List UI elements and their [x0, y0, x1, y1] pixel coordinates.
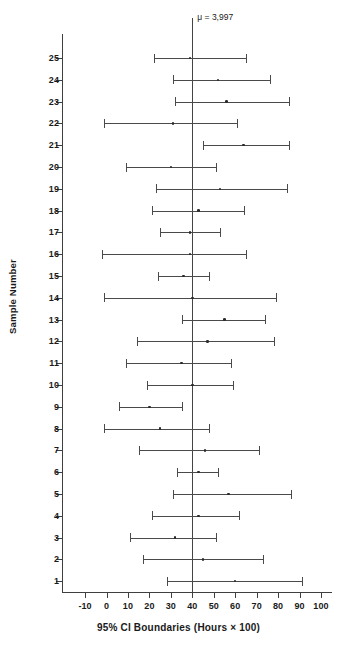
- ci-upper-cap: [237, 119, 238, 128]
- x-tick-90: [300, 592, 301, 598]
- ci-row-sample-13: [0, 314, 357, 326]
- ci-row-sample-18: [0, 205, 357, 217]
- ci-bar: [139, 450, 259, 451]
- x-tick-30: [171, 592, 172, 598]
- ci-lower-cap: [104, 119, 105, 128]
- ci-bar: [130, 538, 216, 539]
- ci-upper-cap: [289, 141, 290, 150]
- ci-upper-cap: [246, 250, 247, 259]
- x-tick--10: [85, 592, 86, 598]
- ci-upper-cap: [220, 228, 221, 237]
- ci-bar: [152, 516, 240, 517]
- x-tick-100: [321, 592, 322, 598]
- ci-lower-cap: [143, 555, 144, 564]
- ci-bar: [102, 254, 246, 255]
- ci-lower-cap: [119, 402, 120, 411]
- ci-row-sample-12: [0, 335, 357, 347]
- ci-upper-cap: [233, 381, 234, 390]
- ci-row-sample-16: [0, 248, 357, 260]
- ci-row-sample-25: [0, 52, 357, 64]
- ci-lower-cap: [130, 533, 131, 542]
- ci-row-sample-23: [0, 96, 357, 108]
- ci-center-point: [191, 297, 194, 300]
- confidence-interval-chart: Sample Number 12345678910111213141516171…: [0, 0, 357, 652]
- ci-lower-cap: [152, 511, 153, 520]
- ci-upper-cap: [216, 163, 217, 172]
- ci-lower-cap: [126, 163, 127, 172]
- ci-lower-cap: [137, 337, 138, 346]
- ci-row-sample-6: [0, 466, 357, 478]
- ci-bar: [154, 58, 246, 59]
- ci-row-sample-19: [0, 183, 357, 195]
- ci-row-sample-2: [0, 553, 357, 565]
- x-tick-50: [214, 592, 215, 598]
- ci-lower-cap: [102, 250, 103, 259]
- ci-lower-cap: [104, 293, 105, 302]
- ci-row-sample-20: [0, 161, 357, 173]
- x-tick-0: [107, 592, 108, 598]
- ci-row-sample-8: [0, 423, 357, 435]
- ci-lower-cap: [104, 424, 105, 433]
- ci-row-sample-9: [0, 401, 357, 413]
- ci-center-point: [206, 340, 209, 343]
- ci-row-sample-11: [0, 357, 357, 369]
- ci-upper-cap: [270, 75, 271, 84]
- ci-upper-cap: [276, 293, 277, 302]
- ci-lower-cap: [175, 97, 176, 106]
- ci-lower-cap: [160, 228, 161, 237]
- x-tick-60: [235, 592, 236, 598]
- ci-lower-cap: [147, 381, 148, 390]
- ci-bar: [104, 123, 237, 124]
- x-tick-label-100: 100: [301, 601, 341, 611]
- ci-row-sample-4: [0, 510, 357, 522]
- ci-lower-cap: [203, 141, 204, 150]
- ci-bar: [173, 80, 270, 81]
- ci-upper-cap: [209, 424, 210, 433]
- x-axis-line: [62, 592, 332, 593]
- ci-row-sample-15: [0, 270, 357, 282]
- ci-upper-cap: [218, 468, 219, 477]
- ci-row-sample-17: [0, 226, 357, 238]
- ci-row-sample-5: [0, 488, 357, 500]
- ci-upper-cap: [289, 97, 290, 106]
- ci-center-point: [191, 384, 194, 387]
- ci-row-sample-22: [0, 117, 357, 129]
- ci-upper-cap: [287, 184, 288, 193]
- ci-upper-cap: [263, 555, 264, 564]
- ci-lower-cap: [152, 206, 153, 215]
- ci-row-sample-14: [0, 292, 357, 304]
- ci-row-sample-3: [0, 532, 357, 544]
- ci-upper-cap: [265, 315, 266, 324]
- ci-lower-cap: [167, 577, 168, 586]
- ci-upper-cap: [239, 511, 240, 520]
- ci-lower-cap: [173, 75, 174, 84]
- x-tick-70: [257, 592, 258, 598]
- ci-row-sample-1: [0, 575, 357, 587]
- ci-bar: [203, 145, 289, 146]
- ci-upper-cap: [209, 272, 210, 281]
- ci-upper-cap: [302, 577, 303, 586]
- x-axis-title: 95% CI Boundaries (Hours × 100): [0, 622, 357, 633]
- ci-lower-cap: [139, 446, 140, 455]
- ci-bar: [104, 429, 209, 430]
- ci-upper-cap: [182, 402, 183, 411]
- ci-lower-cap: [177, 468, 178, 477]
- ci-bar: [126, 363, 231, 364]
- plot-area: 1234567891011121314151617181920212223242…: [0, 0, 357, 652]
- ci-lower-cap: [126, 359, 127, 368]
- ci-upper-cap: [231, 359, 232, 368]
- ci-lower-cap: [173, 490, 174, 499]
- ci-upper-cap: [216, 533, 217, 542]
- mu-reference-label: μ = 3,997: [197, 12, 233, 22]
- ci-lower-cap: [158, 272, 159, 281]
- ci-row-sample-21: [0, 139, 357, 151]
- ci-bar: [173, 494, 291, 495]
- ci-upper-cap: [246, 54, 247, 63]
- x-tick-40: [192, 592, 193, 598]
- ci-lower-cap: [182, 315, 183, 324]
- x-tick-80: [278, 592, 279, 598]
- ci-lower-cap: [156, 184, 157, 193]
- ci-upper-cap: [244, 206, 245, 215]
- ci-upper-cap: [259, 446, 260, 455]
- ci-row-sample-7: [0, 444, 357, 456]
